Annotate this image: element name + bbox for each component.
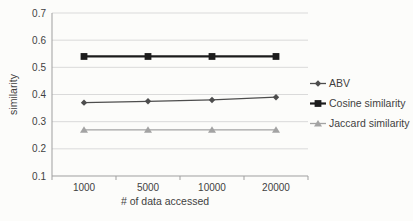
y-tick-label: 0.7 <box>32 8 46 19</box>
x-axis-title: # of data accessed <box>121 195 209 207</box>
x-tick-label: 10000 <box>198 182 226 193</box>
series-cosine-similarity-marker <box>273 53 280 60</box>
series-cosine-similarity-marker <box>145 53 152 60</box>
jaccard-similarity-legend-marker <box>310 118 326 129</box>
series-abv-marker <box>81 99 87 105</box>
legend-triangle-icon <box>310 118 326 129</box>
y-axis-title: similarity <box>7 73 19 115</box>
x-tick-label: 1000 <box>73 182 96 193</box>
legend-label-abv: ABV <box>329 78 350 89</box>
y-tick-label: 0.2 <box>32 143 46 154</box>
series-cosine-similarity-marker <box>81 53 88 60</box>
y-tick-label: 0.4 <box>32 89 46 100</box>
series-abv-marker <box>145 98 151 104</box>
similarity-line-chart: 0.10.20.30.40.50.60.7100050001000020000#… <box>0 0 413 221</box>
x-tick-label: 20000 <box>262 182 290 193</box>
legend: ABV Cosine similarity Jaccard similarity <box>310 73 410 133</box>
x-tick-label: 5000 <box>137 182 160 193</box>
legend-marker-glyph <box>315 100 322 107</box>
legend-marker-glyph <box>315 80 321 86</box>
y-tick-label: 0.3 <box>32 116 46 127</box>
abv-legend-marker <box>310 78 326 89</box>
series-cosine-similarity-marker <box>209 53 216 60</box>
cosine-similarity-legend-marker <box>310 98 326 109</box>
legend-item-abv: ABV <box>310 73 410 93</box>
series-abv-marker <box>209 97 215 103</box>
series-line-abv <box>84 97 276 102</box>
legend-label-cosine-similarity: Cosine similarity <box>329 98 405 109</box>
legend-item-cosine-similarity: Cosine similarity <box>310 93 410 113</box>
y-tick-label: 0.1 <box>32 171 46 182</box>
legend-item-jaccard-similarity: Jaccard similarity <box>310 113 410 133</box>
legend-square-icon <box>310 98 326 109</box>
y-tick-label: 0.5 <box>32 62 46 73</box>
legend-label-jaccard-similarity: Jaccard similarity <box>329 118 410 129</box>
legend-diamond-icon <box>310 78 326 89</box>
y-tick-label: 0.6 <box>32 35 46 46</box>
